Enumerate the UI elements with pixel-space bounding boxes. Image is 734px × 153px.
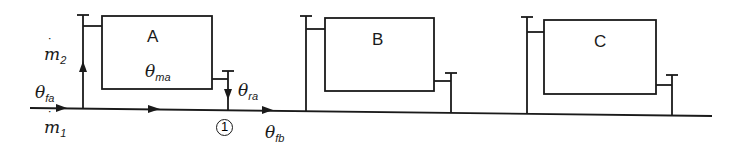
radiator-b: [325, 18, 434, 91]
radiator-a-label: A: [147, 28, 158, 45]
theta-ra-label: θra: [238, 82, 258, 99]
m1-flow-label: ˙m1: [44, 119, 66, 136]
inlet-arrow: [56, 104, 67, 112]
return-down-arrow: [224, 89, 232, 100]
radiator-c-label: C: [594, 33, 606, 50]
main-flow-arrow: [148, 105, 160, 113]
theta-fa-label: θfa: [35, 84, 54, 101]
main-flow-arrow-2: [262, 106, 273, 114]
theta-ma-label: θma: [145, 63, 171, 80]
m2-flow-label: ˙m2: [44, 46, 66, 63]
riser-up-arrow: [79, 61, 87, 72]
node-1-marker: 1: [216, 119, 233, 136]
radiator-b-label: B: [372, 31, 383, 48]
circuit-diagram: [0, 0, 734, 153]
theta-fb-label: θfb: [265, 124, 284, 141]
main-pipe: [30, 108, 712, 116]
